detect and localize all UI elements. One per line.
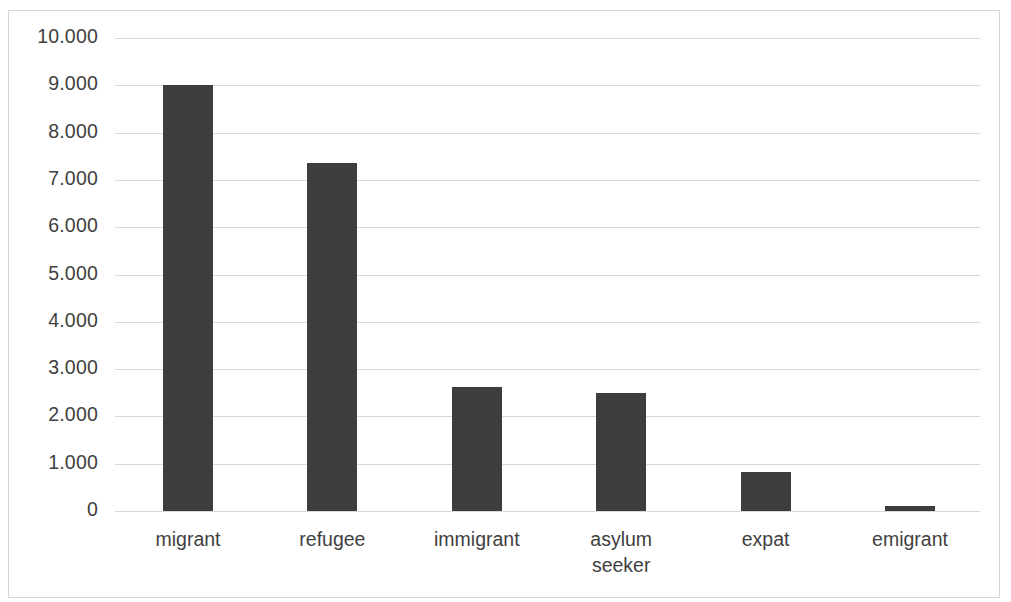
y-axis-tick-label: 7.000	[48, 169, 98, 189]
bar-chart: 01.0002.0003.0004.0005.0006.0007.0008.00…	[0, 0, 1011, 602]
x-axis-tick-label: asylum seeker	[541, 527, 701, 578]
bar[interactable]	[885, 506, 935, 511]
y-axis-tick-label: 10.000	[37, 27, 98, 47]
gridline	[115, 180, 980, 181]
bar[interactable]	[163, 85, 213, 511]
y-axis-tick-label: 6.000	[48, 216, 98, 236]
x-axis-tick-label: expat	[686, 527, 846, 553]
gridline	[115, 416, 980, 417]
gridline	[115, 227, 980, 228]
y-axis-tick-label: 9.000	[48, 74, 98, 94]
bar[interactable]	[596, 393, 646, 511]
bar[interactable]	[741, 472, 791, 511]
gridline	[115, 275, 980, 276]
plot-area	[115, 38, 980, 511]
bar[interactable]	[452, 387, 502, 511]
x-axis-tick-label: immigrant	[397, 527, 557, 553]
gridline	[115, 133, 980, 134]
gridline	[115, 85, 980, 86]
y-axis-tick-label: 3.000	[48, 358, 98, 378]
y-axis-tick-label: 8.000	[48, 122, 98, 142]
y-axis: 01.0002.0003.0004.0005.0006.0007.0008.00…	[0, 0, 98, 602]
y-axis-tick-label: 5.000	[48, 264, 98, 284]
x-axis-tick-label: refugee	[252, 527, 412, 553]
y-axis-tick-label: 1.000	[48, 453, 98, 473]
gridline	[115, 38, 980, 39]
gridline	[115, 369, 980, 370]
bar[interactable]	[307, 163, 357, 511]
x-axis-tick-label: migrant	[108, 527, 268, 553]
y-axis-tick-label: 2.000	[48, 405, 98, 425]
x-axis-tick-label: emigrant	[830, 527, 990, 553]
gridline	[115, 464, 980, 465]
gridline	[115, 511, 980, 512]
gridline	[115, 322, 980, 323]
y-axis-tick-label: 0	[87, 500, 98, 520]
y-axis-tick-label: 4.000	[48, 311, 98, 331]
